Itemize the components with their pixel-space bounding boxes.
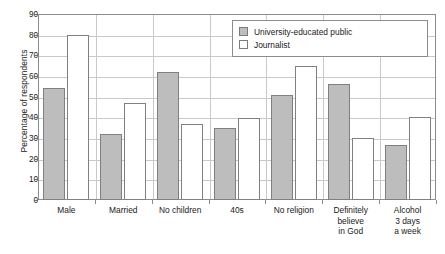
x-axis-tick	[436, 200, 437, 204]
y-axis-tick-marks: 0102030405060708090	[0, 14, 38, 200]
legend-label-university: University-educated public	[254, 27, 352, 37]
x-axis-label: Definitelybelievein God	[322, 205, 379, 237]
legend-swatch-icon-university	[239, 27, 248, 36]
legend: University-educated public Journalist	[232, 20, 428, 57]
x-axis-label: No religion	[265, 205, 322, 216]
x-axis-tick	[209, 200, 210, 204]
legend-item-university: University-educated public	[239, 25, 421, 38]
legend-swatch-icon-journalist	[239, 40, 248, 49]
legend-item-journalist: Journalist	[239, 38, 421, 51]
legend-label-journalist: Journalist	[254, 40, 290, 50]
x-axis-tick	[95, 200, 96, 204]
gridline	[39, 160, 435, 161]
x-axis-tick	[322, 200, 323, 204]
gridline	[39, 98, 435, 99]
x-axis-label: 40s	[209, 205, 266, 216]
gridline	[39, 180, 435, 181]
x-axis-label: Male	[38, 205, 95, 216]
gridline	[39, 139, 435, 140]
x-axis-label: No children	[152, 205, 209, 216]
category-separator	[96, 15, 97, 199]
x-axis-tick	[379, 200, 380, 204]
x-axis-label: Alcohol3 daysa week	[379, 205, 436, 237]
gridline	[39, 118, 435, 119]
x-axis-category-labels: MaleMarriedNo children40sNo religionDefi…	[38, 205, 436, 251]
x-axis-label: Married	[95, 205, 152, 216]
category-separator	[153, 15, 154, 199]
x-axis-tick	[265, 200, 266, 204]
category-separator	[210, 15, 211, 199]
gridline	[39, 77, 435, 78]
bar-chart: Percentage of respondents 01020304050607…	[0, 0, 445, 254]
x-axis-tick	[152, 200, 153, 204]
